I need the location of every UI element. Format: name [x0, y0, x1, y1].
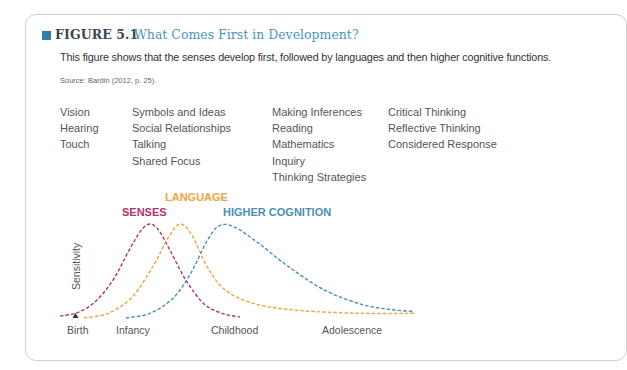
series-labels: SENSESLANGUAGEHIGHER COGNITION — [122, 191, 331, 218]
x-tick-adolescence: Adolescence — [322, 324, 382, 336]
series-layer — [60, 224, 414, 318]
series-label-senses: SENSES — [122, 206, 167, 218]
x-tick-infancy: Infancy — [116, 324, 151, 336]
series-line-language — [84, 224, 414, 318]
y-axis-label: Sensitivity — [70, 242, 82, 290]
x-tick-birth: Birth — [67, 324, 89, 336]
series-label-language: LANGUAGE — [165, 191, 228, 203]
x-tick-childhood: Childhood — [211, 324, 258, 336]
series-line-higher-cognition — [126, 224, 414, 318]
series-label-higher-cognition: HIGHER COGNITION — [223, 206, 331, 218]
